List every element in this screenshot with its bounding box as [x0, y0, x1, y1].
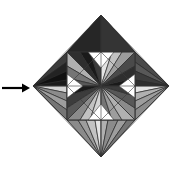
- stellated-octahedron-figure: [0, 0, 183, 169]
- figure-canvas: Stellated octahedron wireframe render wi…: [0, 0, 183, 169]
